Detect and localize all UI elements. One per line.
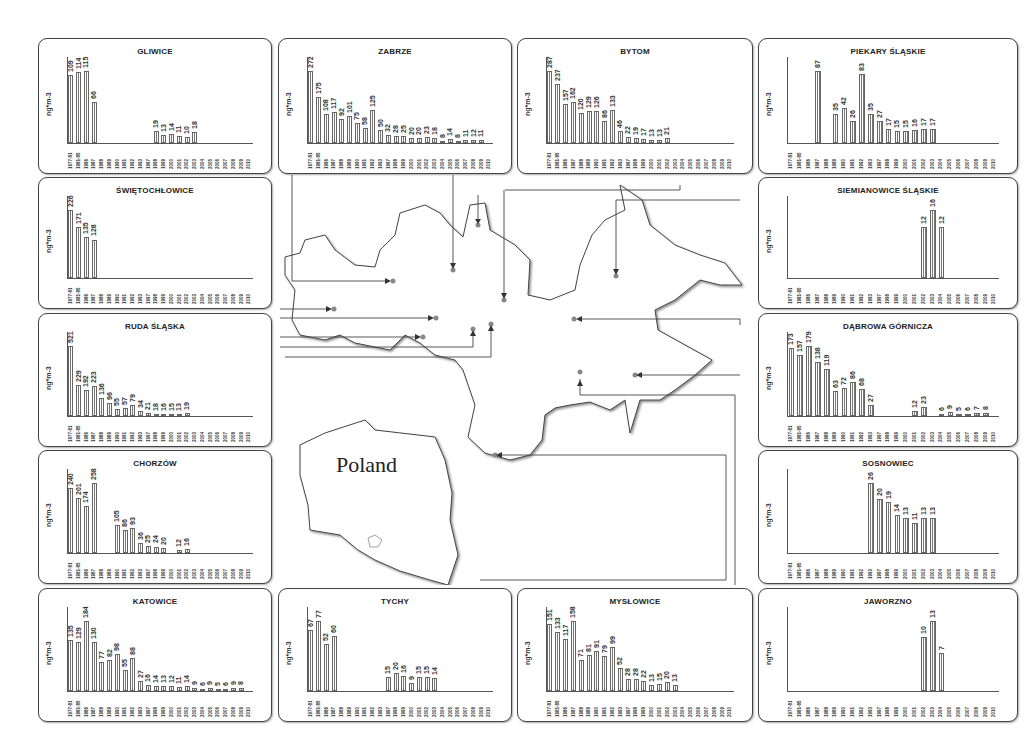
bar-value-label: 8 <box>982 406 989 410</box>
bar-value-label: 14 <box>446 128 453 136</box>
bar <box>886 502 892 553</box>
plot-area: 1977-81671981-85771986521987601988198919… <box>307 607 493 691</box>
x-tick-label: 2009 <box>479 707 484 717</box>
x-tick-label: 1977-81 <box>547 700 552 717</box>
x-tick-label: 1998 <box>153 569 158 579</box>
x-tick-label: 2007 <box>965 707 970 717</box>
x-tick-label: 2007 <box>965 432 970 442</box>
chart-panel-gliwice: GLIWICEng*m-31977-811091981-851141986115… <box>38 38 272 174</box>
x-tick-label: 1988 <box>99 707 104 717</box>
bar-value-label: 14 <box>431 667 438 675</box>
bar <box>169 414 174 416</box>
x-tick-label: 2004 <box>200 707 205 717</box>
bar <box>547 624 552 691</box>
bar-value-label: 11 <box>462 130 469 137</box>
bar <box>594 111 599 143</box>
x-tick-label: 2005 <box>947 569 952 579</box>
x-tick-label: 2001 <box>912 707 917 717</box>
bar <box>571 102 576 143</box>
x-tick-label: 2000 <box>169 432 174 442</box>
x-tick-label: 1987 <box>571 707 576 717</box>
bar-value-label: 20 <box>663 671 670 679</box>
bar-value-label: 119 <box>823 355 830 366</box>
bar-value-label: 5 <box>955 407 962 411</box>
bar <box>930 129 936 143</box>
bar <box>571 621 576 691</box>
bar-value-label: 135 <box>67 625 74 637</box>
x-tick-label: 2009 <box>720 159 725 169</box>
x-tick-label: 1989 <box>586 707 591 717</box>
x-tick-label: 2010 <box>991 159 996 169</box>
bar <box>332 112 337 143</box>
bar <box>877 499 883 553</box>
bar-value-label: 6 <box>964 407 971 411</box>
bar-value-label: 17 <box>885 118 892 126</box>
bar <box>401 676 406 691</box>
x-tick-label: 2001 <box>657 159 662 169</box>
bar-value-label: 19 <box>885 491 892 499</box>
x-tick-label: 2004 <box>938 432 943 442</box>
bar <box>169 686 174 691</box>
x-tick-label: 2005 <box>688 159 693 169</box>
x-tick-label: 1989 <box>347 707 352 717</box>
y-axis-label: ng*m-3 <box>285 92 292 116</box>
bar-value-label: 151 <box>546 609 553 621</box>
x-axis <box>787 278 999 279</box>
x-tick-label: 1997 <box>877 159 882 169</box>
bar-value-label: 162 <box>569 88 576 100</box>
x-tick-label: 1991 <box>850 159 855 169</box>
bar <box>138 681 143 691</box>
x-tick-label: 1989 <box>832 432 837 442</box>
chart-title: KATOWICE <box>39 597 271 606</box>
x-tick-label: 2006 <box>956 159 961 169</box>
x-tick-label: 2002 <box>184 707 189 717</box>
bar-value-label: 16 <box>160 403 167 411</box>
bar <box>912 411 918 416</box>
x-tick-label: 1990 <box>841 159 846 169</box>
bar-value-label: 18 <box>431 127 438 135</box>
bar <box>115 525 120 553</box>
map-outline-icon <box>280 175 760 585</box>
plot-area: 1977-811731981-8515719861791987138198811… <box>787 332 999 416</box>
x-tick-label: 1990 <box>841 569 846 579</box>
x-axis <box>307 143 493 144</box>
bar <box>868 405 874 416</box>
bar-value-label: 9 <box>408 676 415 680</box>
x-tick-label: 1998 <box>153 432 158 442</box>
bar <box>84 506 89 553</box>
bar <box>76 385 81 416</box>
x-tick-label: 1990 <box>115 432 120 442</box>
bar <box>824 369 830 416</box>
x-tick-label: 2005 <box>947 432 952 442</box>
bar <box>208 688 213 691</box>
bar-value-label: 19 <box>183 403 190 411</box>
bar-value-label: 26 <box>849 111 856 119</box>
x-tick-label: 2010 <box>991 569 996 579</box>
x-tick-label: 1990 <box>355 159 360 169</box>
x-tick-label: 1990 <box>355 707 360 717</box>
x-tick-label: 2010 <box>246 569 251 579</box>
bar <box>974 413 980 416</box>
x-tick-label: 2003 <box>930 569 935 579</box>
bar <box>921 129 927 143</box>
x-tick-label: 1989 <box>832 707 837 717</box>
x-tick-label: 1988 <box>824 569 829 579</box>
x-tick-label: 2010 <box>991 432 996 442</box>
bar-value-label: 17 <box>640 128 647 136</box>
x-tick-label: 1992 <box>859 294 864 304</box>
y-axis-label: ng*m-3 <box>524 641 531 665</box>
x-tick-label: 2010 <box>246 707 251 717</box>
bar <box>555 84 560 143</box>
bar-value-label: 28 <box>392 125 399 133</box>
x-tick-label: 1999 <box>894 159 899 169</box>
bar-value-label: 71 <box>577 649 584 657</box>
x-tick-label: 2001 <box>912 432 917 442</box>
bar <box>394 673 399 691</box>
bar-value-label: 175 <box>315 82 322 94</box>
x-tick-label: 1993 <box>378 159 383 169</box>
bar-value-label: 83 <box>858 64 865 72</box>
plot-area: 1977-811511981-8513319861171987158198871… <box>546 607 734 691</box>
x-tick-label: 1991 <box>362 159 367 169</box>
bar <box>223 689 228 691</box>
x-tick-label: 1989 <box>586 159 591 169</box>
